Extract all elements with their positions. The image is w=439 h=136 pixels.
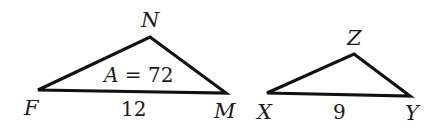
vertex-label-y: Y — [405, 101, 421, 125]
triangle-xzy — [267, 54, 410, 96]
vertex-label-m: M — [213, 99, 236, 123]
base-length-fm: 12 — [121, 97, 146, 121]
vertex-label-x: X — [255, 100, 273, 124]
area-value: = 72 — [118, 63, 173, 87]
similar-triangles-diagram: F N M 12 A = 72 X Z Y 9 — [0, 0, 439, 136]
area-label: A = 72 — [102, 63, 173, 87]
vertex-label-n: N — [140, 8, 160, 32]
diagram-svg: F N M 12 A = 72 X Z Y 9 — [0, 0, 439, 136]
vertex-label-f: F — [23, 96, 40, 120]
base-length-xy: 9 — [333, 100, 346, 124]
area-variable: A — [102, 63, 118, 87]
vertex-label-z: Z — [346, 26, 362, 50]
